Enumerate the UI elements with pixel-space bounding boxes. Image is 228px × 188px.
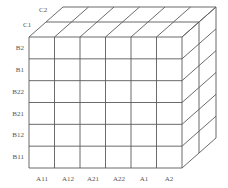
- layer-label-c2: C2: [39, 6, 47, 14]
- row-label-b12: B12: [0, 131, 24, 139]
- col-label-a2: A2: [156, 175, 182, 183]
- row-label-b11: B11: [0, 153, 24, 161]
- col-label-a22: A22: [106, 175, 132, 183]
- col-label-a21: A21: [80, 175, 106, 183]
- cube-diagram: C2 C1 B2 B1 B22 B21 B12 B11 A11 A12 A21 …: [0, 0, 228, 188]
- col-label-a1: A1: [131, 175, 157, 183]
- col-label-a11: A11: [29, 175, 55, 183]
- row-label-b1: B1: [0, 66, 24, 74]
- row-label-b22: B22: [0, 88, 24, 96]
- layer-label-c1: C1: [23, 21, 31, 29]
- row-label-b21: B21: [0, 110, 24, 118]
- cube-grid-lines: [0, 0, 228, 188]
- col-label-a12: A12: [55, 175, 81, 183]
- row-label-b2: B2: [0, 44, 24, 52]
